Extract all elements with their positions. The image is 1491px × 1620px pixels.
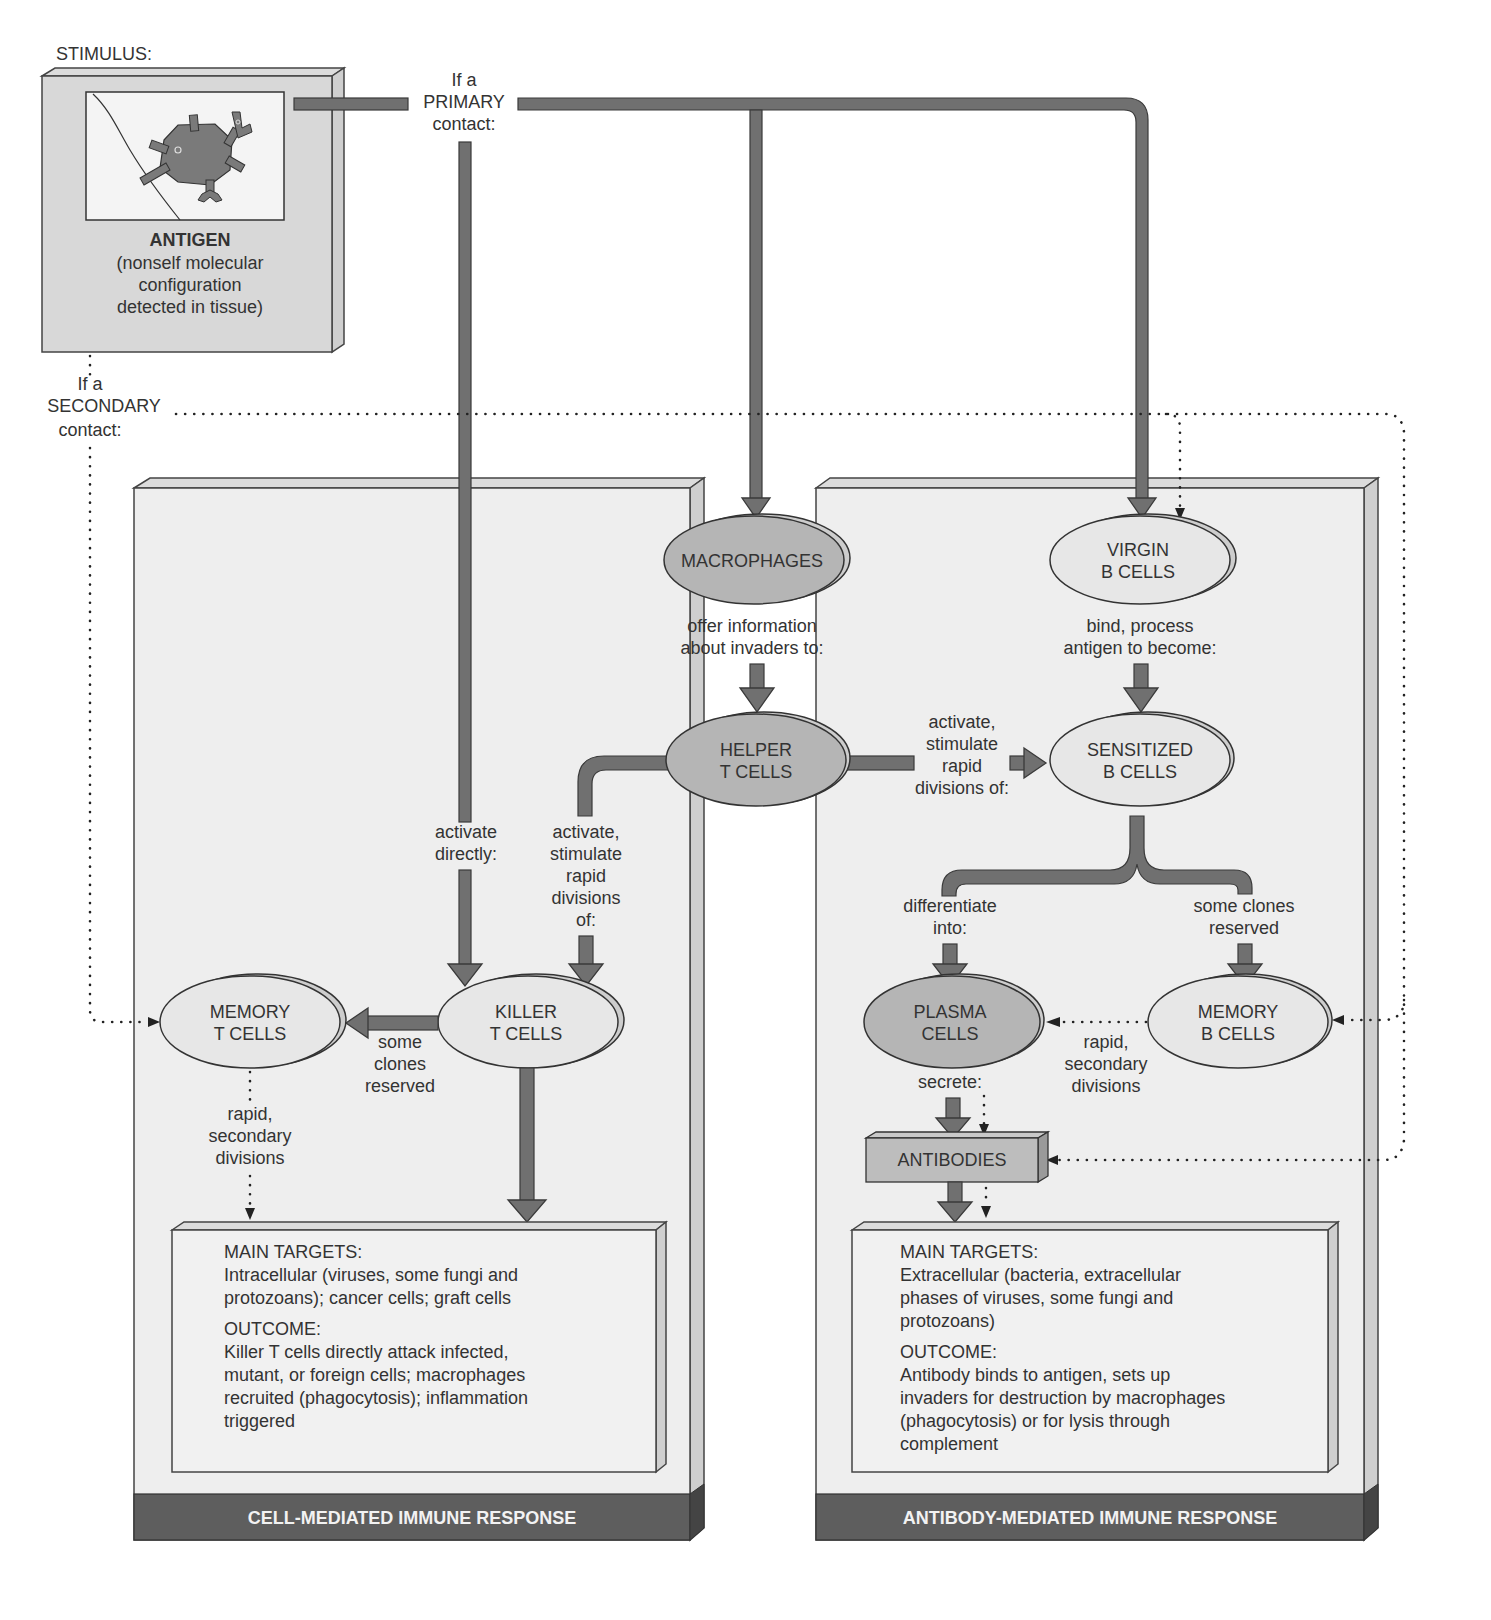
svg-text:SECONDARY: SECONDARY bbox=[47, 396, 161, 416]
svg-text:T CELLS: T CELLS bbox=[214, 1024, 287, 1044]
svg-text:If a: If a bbox=[77, 374, 103, 394]
svg-text:into:: into: bbox=[933, 918, 967, 938]
svg-text:directly:: directly: bbox=[435, 844, 497, 864]
svg-text:about invaders to:: about invaders to: bbox=[680, 638, 823, 658]
svg-text:of:: of: bbox=[576, 910, 596, 930]
svg-text:(nonself molecular: (nonself molecular bbox=[116, 253, 263, 273]
svg-text:(phagocytosis) or for lysis th: (phagocytosis) or for lysis through bbox=[900, 1411, 1170, 1431]
svg-text:reserved: reserved bbox=[1209, 918, 1279, 938]
svg-text:rapid,: rapid, bbox=[1083, 1032, 1128, 1052]
antigen-box: STIMULUS: ANTIGEN (nonself molecular con… bbox=[42, 44, 344, 352]
svg-text:activate,: activate, bbox=[552, 822, 619, 842]
node-virgin-b-cells[interactable]: VIRGIN B CELLS bbox=[1050, 514, 1236, 604]
svg-text:mutant, or foreign cells; macr: mutant, or foreign cells; macrophages bbox=[224, 1365, 525, 1385]
node-memory-t-cells[interactable]: MEMORY T CELLS bbox=[160, 974, 346, 1068]
svg-text:HELPER: HELPER bbox=[720, 740, 792, 760]
svg-text:activate,: activate, bbox=[928, 712, 995, 732]
svg-text:B CELLS: B CELLS bbox=[1201, 1024, 1275, 1044]
svg-text:secondary: secondary bbox=[208, 1126, 291, 1146]
node-macrophages[interactable]: MACROPHAGES bbox=[664, 514, 850, 604]
svg-text:MEMORY: MEMORY bbox=[210, 1002, 291, 1022]
svg-text:divisions: divisions bbox=[215, 1148, 284, 1168]
antibody-mediated-targets-box: MAIN TARGETS: Extracellular (bacteria, e… bbox=[852, 1222, 1338, 1472]
svg-text:triggered: triggered bbox=[224, 1411, 295, 1431]
svg-text:Intracellular (viruses, some f: Intracellular (viruses, some fungi and bbox=[224, 1265, 518, 1285]
svg-text:some clones: some clones bbox=[1193, 896, 1294, 916]
svg-text:MAIN TARGETS:: MAIN TARGETS: bbox=[224, 1242, 362, 1262]
svg-text:OUTCOME:: OUTCOME: bbox=[900, 1342, 997, 1362]
svg-text:divisions of:: divisions of: bbox=[915, 778, 1009, 798]
svg-text:bind, process: bind, process bbox=[1086, 616, 1193, 636]
secondary-contact-label: If a SECONDARY contact: bbox=[47, 374, 161, 440]
cell-mediated-targets-box: MAIN TARGETS: Intracellular (viruses, so… bbox=[172, 1222, 666, 1472]
svg-text:OUTCOME:: OUTCOME: bbox=[224, 1319, 321, 1339]
svg-text:offer information: offer information bbox=[687, 616, 817, 636]
svg-text:differentiate: differentiate bbox=[903, 896, 997, 916]
svg-text:PLASMA: PLASMA bbox=[913, 1002, 986, 1022]
svg-text:SENSITIZED: SENSITIZED bbox=[1087, 740, 1193, 760]
label-secrete: secrete: bbox=[918, 1072, 982, 1092]
svg-text:reserved: reserved bbox=[365, 1076, 435, 1096]
immune-response-diagram: STIMULUS: ANTIGEN (nonself molecular con… bbox=[0, 0, 1491, 1620]
svg-text:complement: complement bbox=[900, 1434, 998, 1454]
svg-text:protozoans): protozoans) bbox=[900, 1311, 995, 1331]
svg-text:B CELLS: B CELLS bbox=[1103, 762, 1177, 782]
stimulus-label: STIMULUS: bbox=[56, 44, 152, 64]
svg-text:Antibody binds to antigen, set: Antibody binds to antigen, sets up bbox=[900, 1365, 1170, 1385]
svg-text:stimulate: stimulate bbox=[926, 734, 998, 754]
svg-text:recruited (phagocytosis); infl: recruited (phagocytosis); inflammation bbox=[224, 1388, 528, 1408]
node-killer-t-cells[interactable]: KILLER T CELLS bbox=[438, 974, 624, 1068]
svg-text:T CELLS: T CELLS bbox=[490, 1024, 563, 1044]
node-memory-b-cells[interactable]: MEMORY B CELLS bbox=[1148, 974, 1332, 1068]
svg-text:divisions: divisions bbox=[551, 888, 620, 908]
primary-contact-label: If a PRIMARY contact: bbox=[423, 70, 505, 134]
svg-text:protozoans); cancer cells; gra: protozoans); cancer cells; graft cells bbox=[224, 1288, 511, 1308]
svg-text:phases of viruses, some fungi: phases of viruses, some fungi and bbox=[900, 1288, 1173, 1308]
node-sensitized-b-cells[interactable]: SENSITIZED B CELLS bbox=[1050, 712, 1234, 806]
svg-text:invaders for destruction by ma: invaders for destruction by macrophages bbox=[900, 1388, 1225, 1408]
svg-text:detected in tissue): detected in tissue) bbox=[117, 297, 263, 317]
svg-text:If a: If a bbox=[451, 70, 477, 90]
cell-mediated-title: CELL-MEDIATED IMMUNE RESPONSE bbox=[248, 1508, 577, 1528]
svg-text:contact:: contact: bbox=[432, 114, 495, 134]
node-plasma-cells[interactable]: PLASMA CELLS bbox=[864, 974, 1044, 1068]
svg-text:MACROPHAGES: MACROPHAGES bbox=[681, 551, 823, 571]
svg-text:B CELLS: B CELLS bbox=[1101, 562, 1175, 582]
svg-text:stimulate: stimulate bbox=[550, 844, 622, 864]
node-antibodies[interactable]: ANTIBODIES bbox=[866, 1132, 1048, 1182]
svg-text:rapid: rapid bbox=[566, 866, 606, 886]
svg-text:configuration: configuration bbox=[138, 275, 241, 295]
svg-text:contact:: contact: bbox=[58, 420, 121, 440]
svg-text:KILLER: KILLER bbox=[495, 1002, 557, 1022]
svg-text:activate: activate bbox=[435, 822, 497, 842]
svg-text:Extracellular (bacteria, extra: Extracellular (bacteria, extracellular bbox=[900, 1265, 1181, 1285]
svg-text:rapid,: rapid, bbox=[227, 1104, 272, 1124]
svg-text:Killer T cells directly attack: Killer T cells directly attack infected, bbox=[224, 1342, 508, 1362]
svg-text:rapid: rapid bbox=[942, 756, 982, 776]
svg-text:MEMORY: MEMORY bbox=[1198, 1002, 1279, 1022]
svg-text:clones: clones bbox=[374, 1054, 426, 1074]
svg-text:T CELLS: T CELLS bbox=[720, 762, 793, 782]
svg-text:some: some bbox=[378, 1032, 422, 1052]
svg-text:MAIN TARGETS:: MAIN TARGETS: bbox=[900, 1242, 1038, 1262]
svg-text:PRIMARY: PRIMARY bbox=[423, 92, 505, 112]
antibody-mediated-title: ANTIBODY-MEDIATED IMMUNE RESPONSE bbox=[903, 1508, 1278, 1528]
antigen-title: ANTIGEN bbox=[150, 230, 231, 250]
node-helper-t-cells[interactable]: HELPER T CELLS bbox=[666, 712, 850, 806]
svg-text:ANTIBODIES: ANTIBODIES bbox=[897, 1150, 1006, 1170]
svg-text:antigen to become:: antigen to become: bbox=[1063, 638, 1216, 658]
svg-text:CELLS: CELLS bbox=[921, 1024, 978, 1044]
svg-text:secondary: secondary bbox=[1064, 1054, 1147, 1074]
arrow-macrophages-to-helper bbox=[740, 664, 774, 712]
svg-text:divisions: divisions bbox=[1071, 1076, 1140, 1096]
svg-text:VIRGIN: VIRGIN bbox=[1107, 540, 1169, 560]
